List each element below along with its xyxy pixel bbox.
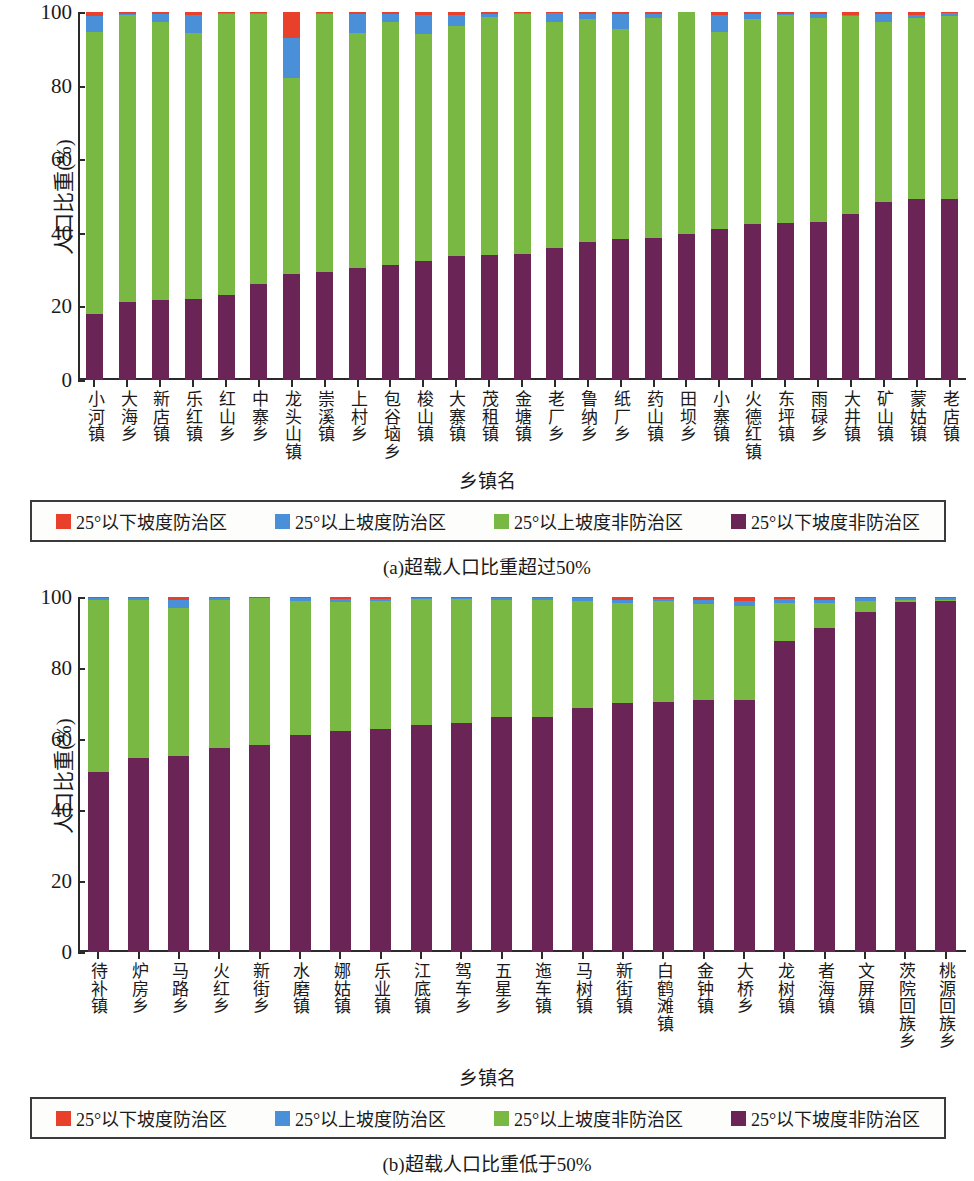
y-tickmark [78, 952, 85, 954]
x-tick-label: 崇溪镇 [316, 390, 334, 443]
legend-item-label: 25°以下坡度非防治区 [751, 1105, 920, 1131]
x-tick-label: 大海乡 [119, 390, 137, 443]
x-tickmark [662, 952, 664, 959]
bar-segment [283, 12, 300, 38]
bar-segment [316, 272, 333, 380]
legend-item[interactable]: 25°以下坡度防治区 [56, 508, 227, 534]
bar-segment [448, 256, 465, 380]
stacked-bar [249, 597, 270, 952]
stacked-bar [734, 597, 755, 952]
stacked-bar [451, 597, 472, 952]
legend-item[interactable]: 25°以上坡度非防治区 [494, 1105, 683, 1131]
legend-item[interactable]: 25°以下坡度非防治区 [731, 1105, 920, 1131]
x-tick-label: 东坪镇 [776, 390, 794, 443]
legend-item[interactable]: 25°以上坡度防治区 [275, 508, 446, 534]
bar-segment [814, 628, 835, 952]
x-tickmark [218, 952, 220, 959]
x-tick-label: 白鹤滩镇 [655, 962, 673, 1032]
y-tick-label: 0 [62, 940, 73, 965]
bar-segment [941, 16, 958, 198]
y-tick-labels: 020406080100 [26, 0, 72, 400]
stacked-bar [250, 12, 267, 380]
bar-segment [546, 22, 563, 249]
y-tick-label: 20 [51, 294, 72, 319]
stacked-bar [814, 597, 835, 952]
stacked-bar [330, 597, 351, 952]
bar-segment [935, 601, 956, 952]
y-tick-label: 80 [51, 656, 72, 681]
x-tick-label: 乐业镇 [372, 962, 390, 1015]
bar-segment [209, 748, 230, 952]
bar-segment [612, 703, 633, 952]
x-tick-label: 红山乡 [217, 390, 235, 443]
x-tickmark [883, 380, 885, 387]
y-tick-labels: 020406080100 [26, 585, 72, 972]
x-tick-label: 老店镇 [941, 390, 959, 443]
bar-segment [451, 723, 472, 952]
x-tickmark [488, 380, 490, 387]
legend-item[interactable]: 25°以上坡度非防治区 [494, 508, 683, 534]
bar-segment [855, 601, 876, 612]
bar-segment [349, 33, 366, 267]
y-tickmark [78, 380, 85, 382]
x-tick-label: 新街镇 [614, 962, 632, 1015]
stacked-bar [209, 597, 230, 952]
x-tickmark [357, 380, 359, 387]
x-tick-label: 马路乡 [170, 962, 188, 1015]
x-tickmark [554, 380, 556, 387]
stacked-bar [481, 12, 498, 380]
y-tick-label: 20 [51, 869, 72, 894]
y-tick-label: 40 [51, 798, 72, 823]
stacked-bar [218, 12, 235, 380]
bar-segment [693, 604, 714, 700]
bar-segment [941, 199, 958, 380]
bar-segment [774, 641, 795, 952]
x-tickmark [138, 952, 140, 959]
x-tickmark [93, 380, 95, 387]
bar-segment [693, 700, 714, 952]
bar-segment [777, 15, 794, 223]
bar-segment [842, 16, 859, 213]
x-tick-label: 梭山镇 [415, 390, 433, 443]
legend-swatch-icon [731, 514, 746, 529]
x-tickmark [587, 380, 589, 387]
x-tickmark [521, 380, 523, 387]
x-tick-label: 老厂乡 [546, 390, 564, 443]
bar-segment [152, 22, 169, 300]
x-tickmark [817, 380, 819, 387]
bar-segment [370, 729, 391, 952]
x-tickmark [97, 952, 99, 959]
stacked-bar [810, 12, 827, 380]
stacked-bar [678, 12, 695, 380]
stacked-bar [316, 12, 333, 380]
bar-segment [349, 14, 366, 34]
bar-segment [415, 34, 432, 261]
legend-item[interactable]: 25°以下坡度防治区 [56, 1105, 227, 1131]
x-tickmark [653, 380, 655, 387]
legend-item[interactable]: 25°以上坡度防治区 [275, 1105, 446, 1131]
stacked-bar [411, 597, 432, 952]
bar-segment [645, 238, 662, 380]
x-tick-label: 田坝乡 [678, 390, 696, 443]
stacked-bar [491, 597, 512, 952]
x-tick-label: 娜姑镇 [332, 962, 350, 1015]
bar-segment [810, 18, 827, 222]
bar-segment [532, 600, 553, 717]
bar-segment [283, 274, 300, 380]
bar-segment [546, 248, 563, 380]
bar-segment [814, 603, 835, 627]
stacked-bar [572, 597, 593, 952]
bar-segment [411, 725, 432, 952]
bar-segment [579, 19, 596, 242]
stacked-bar [415, 12, 432, 380]
legend-item[interactable]: 25°以下坡度非防治区 [731, 508, 920, 534]
x-tick-label: 纸厂乡 [612, 390, 630, 443]
x-tickmark [258, 380, 260, 387]
panel-caption: (a)超载人口比重超过50% [0, 552, 974, 579]
bar-segment [249, 598, 270, 746]
panel-a: 人口比重(%)020406080100小河镇大海乡新店镇乐红镇红山乡中寨乡龙头山… [0, 0, 974, 585]
x-tick-label: 龙头山镇 [283, 390, 301, 460]
stacked-bar [283, 12, 300, 380]
bar-segment [250, 284, 267, 380]
bar-segment [185, 15, 202, 33]
